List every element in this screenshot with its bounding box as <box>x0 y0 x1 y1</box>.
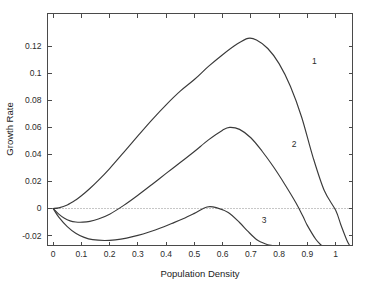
y-tick-label: 0.1 <box>30 68 42 78</box>
curve-label-2: 2 <box>292 139 297 149</box>
y-axis-title: Growth Rate <box>4 102 15 155</box>
x-tick-label: 1 <box>333 249 338 259</box>
x-tick-label: 0.2 <box>104 249 116 259</box>
x-tick-label: 0.8 <box>273 249 285 259</box>
x-tick-label: 0.4 <box>160 249 172 259</box>
x-tick-label: 0 <box>51 249 56 259</box>
y-tick-label: 0.06 <box>25 122 42 132</box>
curve-label-1: 1 <box>312 56 317 66</box>
y-tick-label: -0.02 <box>22 231 42 241</box>
growth-rate-vs-population-density-chart: 00.10.20.30.40.50.60.70.80.91 -0.0200.02… <box>0 0 366 291</box>
x-tick-label: 0.7 <box>245 249 257 259</box>
y-tick-label: 0.02 <box>25 176 42 186</box>
x-axis-title: Population Density <box>160 268 239 279</box>
x-tick-label: 0.3 <box>132 249 144 259</box>
plot-background <box>0 0 366 291</box>
x-tick-label: 0.9 <box>301 249 313 259</box>
y-tick-label: 0.04 <box>25 149 42 159</box>
figure-container: 00.10.20.30.40.50.60.70.80.91 -0.0200.02… <box>0 0 366 291</box>
curve-label-3: 3 <box>262 215 267 225</box>
y-tick-label: 0 <box>37 203 42 213</box>
x-tick-label: 0.5 <box>188 249 200 259</box>
y-tick-label: 0.12 <box>25 41 42 51</box>
x-tick-label: 0.6 <box>217 249 229 259</box>
y-tick-label: 0.08 <box>25 95 42 105</box>
x-tick-label: 0.1 <box>75 249 87 259</box>
